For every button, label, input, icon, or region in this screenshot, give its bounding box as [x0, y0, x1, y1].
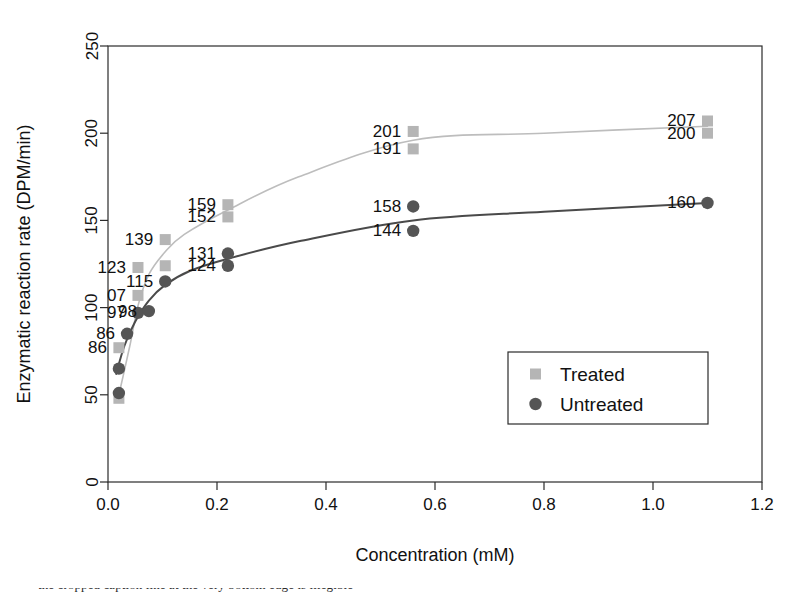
- data-point-label: 86: [96, 324, 115, 343]
- data-point-label: 158: [373, 197, 401, 216]
- legend-label-treated: Treated: [560, 364, 625, 385]
- data-point-treated: [160, 260, 171, 271]
- data-point-untreated: [159, 275, 171, 287]
- data-point-label: 139: [125, 230, 153, 249]
- data-point-treated: [408, 143, 419, 154]
- data-point-label: 124: [188, 256, 216, 275]
- data-point-label: 201: [373, 122, 401, 141]
- data-point-label: 144: [373, 221, 401, 240]
- y-axis-tick-label: 50: [83, 385, 102, 404]
- data-point-untreated: [222, 260, 234, 272]
- data-point-treated: [702, 115, 713, 126]
- data-point-untreated: [701, 197, 713, 209]
- y-axis-tick-label: 150: [83, 206, 102, 234]
- data-point-label: 98: [118, 302, 137, 321]
- x-axis-tick-label: 0.0: [96, 495, 120, 514]
- x-axis-tick-label: 0.8: [532, 495, 556, 514]
- data-point-untreated: [113, 362, 125, 374]
- data-point-untreated: [143, 305, 155, 317]
- data-point-label: 160: [667, 193, 695, 212]
- data-point-untreated: [121, 328, 133, 340]
- x-axis-title: Concentration (mM): [355, 545, 514, 565]
- clipped-caption-text: the cropped caption line at the very bot…: [38, 588, 768, 593]
- data-point-treated: [222, 211, 233, 222]
- data-point-label: 123: [98, 258, 126, 277]
- x-axis-tick-label: 0.2: [205, 495, 229, 514]
- y-axis-tick-label: 200: [83, 119, 102, 147]
- data-point-treated: [408, 126, 419, 137]
- x-axis-tick-label: 0.6: [423, 495, 447, 514]
- data-point-label: 200: [667, 124, 695, 143]
- clipped-caption-strip: the cropped caption line at the very bot…: [0, 588, 795, 602]
- data-point-untreated: [113, 387, 125, 399]
- legend-marker-treated: [530, 369, 541, 380]
- data-point-label: 115: [126, 272, 153, 291]
- data-point-untreated: [407, 200, 419, 212]
- data-point-label: 152: [188, 207, 216, 226]
- x-axis-tick-label: 1.2: [750, 495, 774, 514]
- x-axis-tick-label: 1.0: [641, 495, 665, 514]
- data-point-treated: [702, 128, 713, 139]
- x-axis-tick-label: 0.4: [314, 495, 338, 514]
- data-point-label: 191: [373, 139, 401, 158]
- data-point-treated: [160, 234, 171, 245]
- legend-marker-untreated: [529, 398, 541, 410]
- data-point-treated: [222, 199, 233, 210]
- figure-container: 0.00.20.40.60.81.01.2050100150200250Conc…: [0, 0, 795, 602]
- y-axis-tick-label: 250: [83, 32, 102, 60]
- legend-label-untreated: Untreated: [560, 394, 643, 415]
- data-point-treated: [132, 290, 143, 301]
- data-point-untreated: [222, 247, 234, 259]
- data-point-untreated: [407, 225, 419, 237]
- y-axis-tick-label: 0: [83, 477, 102, 486]
- y-axis-tick-label: 100: [83, 293, 102, 321]
- enzyme-kinetics-chart: 0.00.20.40.60.81.01.2050100150200250Conc…: [0, 0, 795, 602]
- data-point-treated: [113, 342, 124, 353]
- y-axis-title: Enzymatic reaction rate (DPM/min): [14, 124, 34, 403]
